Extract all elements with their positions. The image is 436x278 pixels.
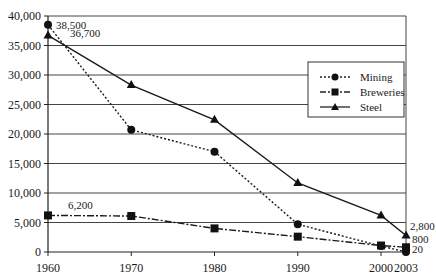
axes [44, 16, 406, 256]
line-chart: 05,00010,00015,00020,00025,00030,00035,0… [0, 0, 436, 278]
triangle-marker-icon [127, 80, 136, 88]
triangle-marker-icon [44, 30, 53, 38]
y-tick-label: 35,000 [8, 39, 41, 53]
y-tick-label: 25,000 [8, 98, 41, 112]
x-tick-label: 2003 [394, 261, 418, 275]
x-tick-label: 2000 [369, 261, 393, 275]
series-breweries [44, 211, 410, 251]
circle-marker-icon [294, 220, 302, 228]
circle-marker-icon [211, 148, 219, 156]
square-marker-icon [294, 233, 302, 241]
y-tick-label: 10,000 [8, 186, 41, 200]
y-axis-tick-labels: 05,00010,00015,00020,00025,00030,00035,0… [8, 9, 41, 259]
square-marker-icon [127, 212, 135, 220]
data-label: 20 [412, 243, 424, 255]
circle-marker-icon [332, 74, 339, 81]
x-tick-label: 1980 [203, 261, 227, 275]
y-tick-label: 5,000 [14, 216, 41, 230]
x-tick-label: 1970 [119, 261, 143, 275]
legend-label-breweries: Breweries [360, 86, 405, 98]
gridlines [48, 16, 406, 223]
data-series [44, 21, 411, 256]
square-marker-icon [332, 89, 339, 96]
legend: Mining Breweries Steel [308, 62, 405, 117]
square-marker-icon [402, 243, 410, 251]
circle-marker-icon [44, 21, 52, 29]
square-marker-icon [44, 211, 52, 219]
y-tick-label: 40,000 [8, 9, 41, 23]
square-marker-icon [377, 242, 385, 250]
series-mining [44, 21, 410, 256]
y-tick-label: 20,000 [8, 127, 41, 141]
data-label: 2,800 [410, 220, 435, 232]
legend-label-steel: Steel [360, 101, 382, 113]
y-tick-label: 30,000 [8, 68, 41, 82]
triangle-marker-icon [293, 178, 302, 186]
x-tick-label: 1960 [36, 261, 60, 275]
x-tick-label: 1990 [286, 261, 310, 275]
legend-label-mining: Mining [360, 71, 393, 83]
y-tick-label: 15,000 [8, 157, 41, 171]
data-label: 36,700 [70, 27, 101, 39]
x-axis-tick-labels: 196019701980199020002003 [36, 261, 418, 275]
data-annotations: 38,50036,7006,2002,80080020 [56, 19, 435, 255]
square-marker-icon [211, 224, 219, 232]
data-label: 6,200 [68, 199, 93, 211]
circle-marker-icon [127, 126, 135, 134]
y-tick-label: 0 [35, 245, 41, 259]
